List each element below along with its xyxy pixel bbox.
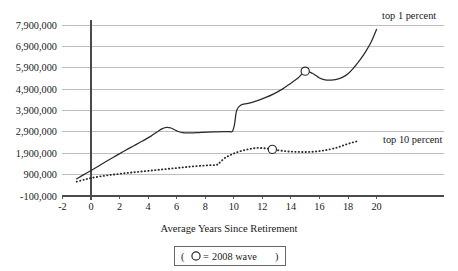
chart-container: -100,000900,0001,900,0002,900,0003,900,0… [0,0,458,271]
legend-label: 2008 wave [212,251,257,262]
legend-open-paren: ( [181,251,185,263]
x-axis-tick-label: 14 [286,201,296,212]
x-axis-tick-label: 18 [343,201,353,212]
legend-close-paren: ) [275,251,278,263]
y-axis-tick-label: 900,000 [24,169,57,180]
y-axis-tick-label: 1,900,000 [16,148,57,159]
x-axis-tick-label: 2 [117,201,122,212]
x-axis-tick-labels: -202468101214161820 [58,201,382,212]
y-axis-tick-label: 7,900,000 [16,20,57,31]
x-axis-tick-label: 8 [203,201,208,212]
gridlines [62,25,444,196]
y-axis-tick-label: 3,900,000 [16,105,57,116]
legend-circle-icon [192,252,200,260]
series-line-top-10-percent [77,141,358,182]
x-axis-title: Average Years Since Retirement [161,223,298,234]
y-axis-tick-label: -100,000 [20,191,57,202]
y-axis-tick-label: 4,900,000 [16,84,57,95]
x-axis-tick-label: 20 [371,201,381,212]
series-label-top-1-percent: top 1 percent [382,10,436,21]
x-axis-tick-label: -2 [58,201,67,212]
y-axis-tick-label: 5,900,000 [16,62,57,73]
x-axis-tick-label: 16 [314,201,324,212]
series-line-top-1-percent [77,29,377,179]
legend-equals-sign: = [203,251,209,262]
wave-marker-top-10-percent [268,145,276,153]
x-axis-tick-label: 0 [88,201,93,212]
x-axis-tick-label: 12 [257,201,267,212]
y-axis-tick-labels: -100,000900,0001,900,0002,900,0003,900,0… [16,20,57,202]
legend: ( = 2008 wave ) [174,246,285,265]
series-label-top-10-percent: top 10 percent [383,134,443,145]
x-axis-tick-label: 6 [174,201,179,212]
wealth-line-chart: -100,000900,0001,900,0002,900,0003,900,0… [0,0,458,271]
y-axis-tick-label: 2,900,000 [16,126,57,137]
y-axis-tick-label: 6,900,000 [16,41,57,52]
x-axis-tick-label: 4 [146,201,151,212]
x-axis-tick-label: 10 [229,201,239,212]
wave-marker-top-1-percent [301,67,309,75]
